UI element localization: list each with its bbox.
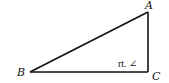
vertex-label-b: B (16, 66, 25, 79)
triangle-diagram: A B C rt. ∠ (0, 0, 169, 83)
vertex-label-c: C (152, 70, 161, 83)
right-angle-annotation: rt. ∠ (118, 58, 138, 69)
vertex-label-a: A (144, 0, 153, 12)
